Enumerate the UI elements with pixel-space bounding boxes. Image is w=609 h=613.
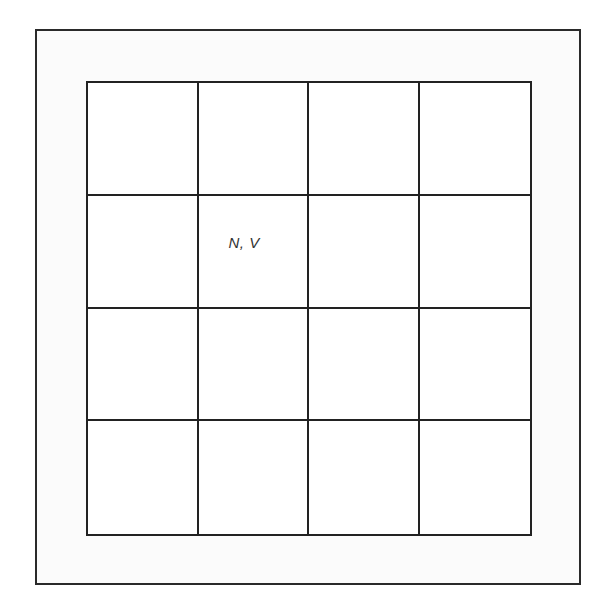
grid-cell-r0-c1 — [199, 83, 310, 196]
cell-label-nv: N, V — [229, 234, 260, 251]
grid-cell-r1-c2 — [309, 196, 420, 309]
grid-cell-r2-c3 — [420, 309, 531, 422]
grid-cell-r0-c3 — [420, 83, 531, 196]
grid-4x4: N, V — [86, 81, 532, 536]
grid-cell-r1-c0 — [88, 196, 199, 309]
grid-cell-r0-c0 — [88, 83, 199, 196]
grid-cell-r3-c0 — [88, 421, 199, 534]
grid-cell-r3-c3 — [420, 421, 531, 534]
grid-cell-r3-c1 — [199, 421, 310, 534]
grid-cell-r0-c2 — [309, 83, 420, 196]
grid-cell-r2-c2 — [309, 309, 420, 422]
grid-cell-r2-c1 — [199, 309, 310, 422]
grid-cell-r2-c0 — [88, 309, 199, 422]
grid-cell-r1-c1: N, V — [199, 196, 310, 309]
grid-cell-r3-c2 — [309, 421, 420, 534]
grid-cell-r1-c3 — [420, 196, 531, 309]
